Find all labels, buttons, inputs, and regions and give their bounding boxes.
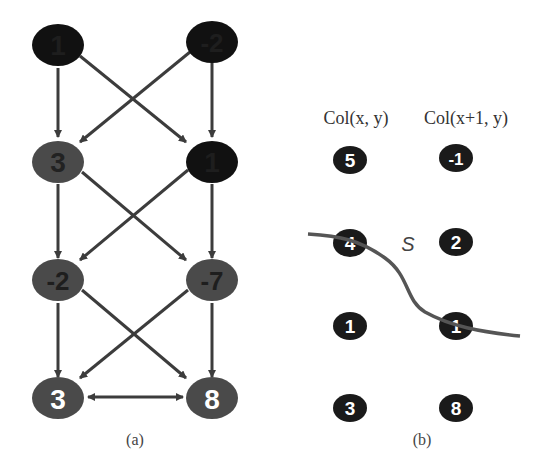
- svg-text:8: 8: [204, 384, 220, 415]
- svg-text:1: 1: [345, 316, 356, 337]
- svg-text:3: 3: [345, 398, 356, 419]
- caption-b: (b): [413, 431, 432, 449]
- node-r1c1: 1: [186, 141, 238, 183]
- left-node-3: 3: [333, 394, 367, 422]
- curve-label-s: S: [401, 233, 415, 255]
- svg-text:2: 2: [451, 232, 462, 253]
- svg-text:8: 8: [451, 398, 462, 419]
- edge: [80, 52, 190, 142]
- node-r3c0: 3: [32, 377, 84, 419]
- right-node-0: -1: [439, 144, 473, 172]
- header-col-x1-y: Col(x+1, y): [424, 108, 508, 129]
- svg-text:-2: -2: [200, 28, 223, 58]
- panel-a-edges: [58, 52, 212, 397]
- node-r0c1: -2: [186, 21, 238, 63]
- node-r3c1: 8: [186, 377, 238, 419]
- left-node-0: 5: [333, 146, 367, 174]
- svg-text:3: 3: [50, 147, 66, 178]
- node-r0c0: 1: [32, 24, 84, 66]
- right-node-3: 8: [439, 394, 473, 422]
- svg-text:-2: -2: [46, 266, 69, 296]
- right-node-1: 2: [439, 228, 473, 256]
- svg-text:1: 1: [50, 30, 66, 61]
- caption-a: (a): [126, 431, 144, 449]
- svg-text:1: 1: [204, 147, 220, 178]
- svg-text:-7: -7: [200, 266, 223, 296]
- node-r2c1: -7: [186, 259, 238, 301]
- node-r2c0: -2: [32, 259, 84, 301]
- panel-a-nodes: 1 -2 3 1 -2 -7 3 8: [32, 21, 238, 419]
- diagram-canvas: 1 -2 3 1 -2 -7 3 8 (a): [0, 0, 552, 473]
- svg-text:3: 3: [50, 384, 66, 415]
- left-node-2: 1: [333, 312, 367, 340]
- svg-text:5: 5: [345, 150, 356, 171]
- node-r1c0: 3: [32, 141, 84, 183]
- svg-text:4: 4: [345, 233, 356, 254]
- header-col-x-y: Col(x, y): [324, 108, 389, 129]
- svg-text:-1: -1: [448, 150, 463, 169]
